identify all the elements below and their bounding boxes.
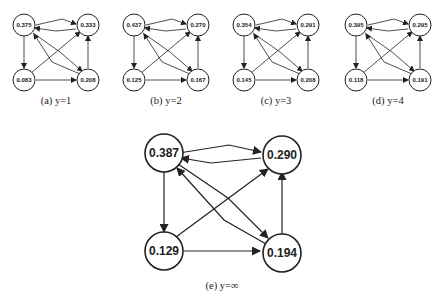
node-bottom-left: 0.145 — [233, 69, 255, 91]
edge-bl-tr — [141, 32, 190, 73]
edge-bl-tr — [176, 169, 268, 237]
node-bottom-left: 0.083 — [13, 69, 35, 91]
edge-tl-tr — [146, 19, 186, 25]
subfigure-a: 0.375 0.333 0.083 0.208 (a) y=1 — [13, 14, 99, 107]
edge-tl-tr — [368, 19, 408, 25]
subfigure-b: 0.437 0.270 0.125 0.167 (b) y=2 — [123, 14, 209, 107]
node-top-left: 0.437 — [123, 14, 145, 36]
node-top-right: 0.333 — [77, 14, 99, 36]
caption: (a) y=1 — [41, 95, 72, 107]
node-value: 0.208 — [300, 77, 316, 83]
node-bottom-left: 0.118 — [345, 69, 367, 91]
node-value: 0.194 — [267, 246, 297, 260]
node-value: 0.354 — [236, 22, 252, 28]
edge-tr-tl — [145, 28, 186, 31]
node-value: 0.290 — [267, 148, 297, 162]
node-value: 0.395 — [348, 22, 364, 28]
caption: (e) y=∞ — [206, 280, 239, 292]
node-top-right: 0.295 — [409, 14, 431, 36]
node-bottom-right: 0.208 — [77, 69, 99, 91]
node-top-left: 0.375 — [13, 14, 35, 36]
edge-tr-tl — [35, 28, 76, 31]
edge-tl-tr — [179, 145, 261, 153]
node-bottom-right: 0.194 — [263, 234, 301, 272]
edge-br-tl — [254, 34, 300, 74]
node-top-right: 0.290 — [263, 136, 301, 174]
node-value: 0.125 — [126, 77, 142, 83]
node-value: 0.118 — [349, 77, 364, 83]
node-bottom-left: 0.129 — [145, 232, 183, 270]
edge-br-tl — [177, 168, 266, 244]
node-bottom-right: 0.208 — [297, 69, 319, 91]
node-value: 0.083 — [16, 77, 32, 83]
node-value: 0.333 — [80, 22, 96, 28]
caption: (b) y=2 — [150, 95, 181, 107]
node-value: 0.437 — [126, 22, 142, 28]
edge-br-tl — [34, 34, 80, 74]
edge-br-tl — [366, 34, 412, 74]
node-value: 0.291 — [300, 22, 316, 28]
node-top-left: 0.387 — [145, 134, 183, 172]
edge-tl-tr — [256, 19, 296, 25]
node-top-left: 0.354 — [233, 14, 255, 36]
edge-br-tl — [144, 34, 190, 74]
edge-bl-tr — [31, 32, 80, 73]
edge-tr-tl — [181, 158, 261, 163]
edge-bl-tr — [363, 32, 412, 73]
figure-canvas: 0.375 0.333 0.083 0.208 (a) y=1 0.437 0.… — [0, 0, 446, 296]
node-bottom-right: 0.191 — [409, 69, 431, 91]
subfigure-c: 0.354 0.291 0.145 0.208 (c) y=3 — [233, 14, 319, 107]
edge-tl-tr — [36, 19, 76, 25]
caption: (c) y=3 — [261, 95, 292, 107]
node-top-right: 0.270 — [187, 14, 209, 36]
node-bottom-right: 0.167 — [187, 69, 209, 91]
edge-tl-br — [178, 164, 268, 238]
node-value: 0.375 — [16, 22, 32, 28]
node-top-left: 0.395 — [345, 14, 367, 36]
subfigure-e: 0.387 0.290 0.129 0.194 (e) y=∞ — [145, 134, 301, 292]
node-value: 0.208 — [80, 77, 96, 83]
node-value: 0.129 — [149, 244, 179, 258]
node-bottom-left: 0.125 — [123, 69, 145, 91]
node-value: 0.167 — [190, 77, 206, 83]
subfigure-d: 0.395 0.295 0.118 0.191 (d) y=4 — [345, 14, 431, 107]
caption: (d) y=4 — [372, 95, 404, 107]
edge-tr-tl — [255, 28, 296, 31]
edge-tr-tl — [367, 28, 408, 31]
node-value: 0.387 — [149, 146, 179, 160]
node-value: 0.270 — [190, 22, 206, 28]
edge-bl-tr — [251, 32, 300, 73]
node-value: 0.145 — [236, 77, 252, 83]
node-top-right: 0.291 — [297, 14, 319, 36]
node-value: 0.191 — [412, 77, 428, 83]
node-value: 0.295 — [412, 22, 428, 28]
